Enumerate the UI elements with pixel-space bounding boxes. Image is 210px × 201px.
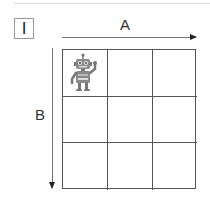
grid-cell-r3c2 (108, 143, 153, 190)
axis-b-arrow (52, 48, 53, 188)
grid-3x3 (62, 49, 196, 189)
grid-cell-r2c3 (153, 97, 197, 143)
grid-cell-r3c3 (153, 143, 197, 190)
grid-cell-r2c1 (63, 97, 108, 143)
top-divider (14, 3, 210, 4)
axis-b-label: B (35, 106, 45, 123)
figure-label: I (14, 18, 34, 39)
grid-cell-r1c1 (63, 50, 108, 97)
arrow-right-icon (190, 34, 197, 40)
grid-cell-r1c2 (108, 50, 153, 97)
robot-icon (69, 53, 103, 93)
arrow-down-icon (49, 182, 55, 189)
grid-cell-r3c1 (63, 143, 108, 190)
axis-a-arrow (62, 37, 196, 38)
grid-cell-r1c3 (153, 50, 197, 97)
grid-cell-r2c2 (108, 97, 153, 143)
figure-label-text: I (22, 20, 27, 37)
axis-a-label: A (120, 16, 130, 33)
